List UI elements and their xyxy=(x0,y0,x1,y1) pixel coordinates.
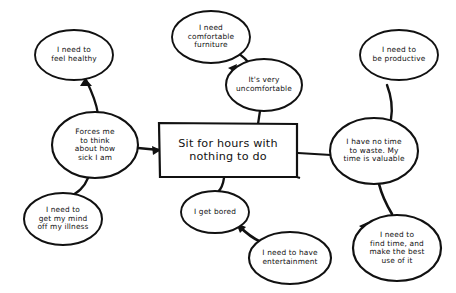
node-need-entertainment[interactable] xyxy=(249,232,331,284)
node-i-get-bored[interactable] xyxy=(181,191,249,233)
node-no-time-to-waste[interactable] xyxy=(330,118,418,184)
connector-uncomfortable-to-center xyxy=(258,111,260,124)
node-find-time-best-use[interactable] xyxy=(353,215,441,281)
connector-notime-to-findtime xyxy=(379,184,392,214)
node-forces-me-to-think[interactable] xyxy=(52,112,138,178)
node-very-uncomfortable[interactable] xyxy=(226,59,302,111)
node-comfortable-furniture[interactable] xyxy=(172,11,250,63)
node-get-my-mind-off[interactable] xyxy=(24,193,102,245)
center-box-label: Sit for hours with nothing to do xyxy=(178,137,277,163)
connector-center-to-notime xyxy=(298,153,331,155)
node-feel-healthy[interactable] xyxy=(35,30,113,80)
connector-notime-to-productive xyxy=(387,85,392,119)
node-be-productive[interactable] xyxy=(360,30,438,80)
